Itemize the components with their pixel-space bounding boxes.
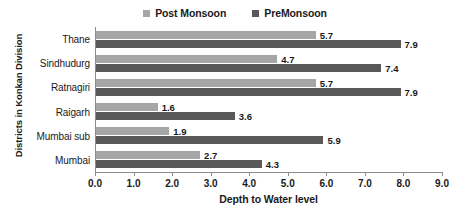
bar-value-post-monsoon: 5.7	[316, 77, 333, 88]
x-tick-label: 9.0	[435, 178, 449, 189]
legend-entry-post-monsoon: Post Monsoon	[143, 7, 226, 19]
y-tick-label: Mumbai sub	[37, 130, 90, 141]
x-axis-title-text: Depth to Water level	[219, 193, 318, 205]
x-tick-label: 6.0	[319, 178, 333, 189]
y-tick-label: Sindhudurg	[40, 58, 90, 69]
bar-value-pre-monsoon: 3.6	[235, 111, 252, 122]
bar-pre-monsoon[interactable]	[96, 40, 401, 48]
bar-post-monsoon[interactable]	[96, 55, 277, 63]
x-tick-label: 8.0	[396, 178, 410, 189]
y-tick-label: Raigarh	[56, 106, 90, 117]
y-axis-title-text: Districts in Konkan Division	[14, 34, 25, 157]
bar-post-monsoon[interactable]	[96, 31, 316, 39]
x-tick-mark	[95, 172, 96, 176]
bar-value-pre-monsoon: 7.4	[381, 62, 398, 73]
x-tick-label: 3.0	[204, 178, 218, 189]
bar-value-post-monsoon: 2.7	[200, 150, 217, 161]
x-tick-label: 0.0	[88, 178, 102, 189]
x-axis-title: Depth to Water level	[95, 193, 442, 205]
bar-value-pre-monsoon: 4.3	[262, 159, 279, 170]
bar-value-pre-monsoon: 7.9	[401, 38, 418, 49]
legend-label-post-monsoon: Post Monsoon	[155, 7, 226, 19]
y-axis-title: Districts in Konkan Division	[11, 0, 27, 215]
bar-pre-monsoon[interactable]	[96, 112, 235, 120]
bar-pre-monsoon-wrap: 4.3	[95, 160, 442, 168]
bar-pre-monsoon-wrap: 3.6	[95, 112, 442, 120]
y-tick-label: Ratnagiri	[51, 82, 90, 93]
bar-pre-monsoon[interactable]	[96, 64, 381, 72]
bar-group: Mumbai sub1.95.9	[95, 124, 442, 148]
y-tick-label: Mumbai	[55, 154, 90, 165]
x-tick-label: 7.0	[358, 178, 372, 189]
bar-post-monsoon-wrap: 1.6	[95, 103, 442, 111]
bar-value-post-monsoon: 1.9	[169, 126, 186, 137]
bar-pre-monsoon[interactable]	[96, 160, 262, 168]
bar-pre-monsoon[interactable]	[96, 136, 323, 144]
bar-value-post-monsoon: 4.7	[277, 53, 294, 64]
bar-group: Ratnagiri5.77.9	[95, 75, 442, 99]
bar-post-monsoon[interactable]	[96, 127, 169, 135]
bar-value-post-monsoon: 5.7	[316, 29, 333, 40]
bar-pre-monsoon-wrap: 5.9	[95, 136, 442, 144]
x-tick-label: 1.0	[127, 178, 141, 189]
bar-pre-monsoon-wrap: 7.9	[95, 40, 442, 48]
bar-post-monsoon-wrap: 5.7	[95, 31, 442, 39]
y-tick-label: Thane	[62, 34, 90, 45]
x-tick-label: 5.0	[281, 178, 295, 189]
bar-chart: Post Monsoon PreMonsoon Districts in Kon…	[0, 0, 470, 215]
bar-group: Sindhudurg4.77.4	[95, 51, 442, 75]
legend-label-pre-monsoon: PreMonsoon	[264, 7, 327, 19]
x-tick-mark	[249, 172, 250, 176]
bar-value-pre-monsoon: 7.9	[401, 86, 418, 97]
bar-group: Mumbai2.74.3	[95, 148, 442, 172]
x-tick-mark	[442, 172, 443, 176]
bar-value-pre-monsoon: 5.9	[323, 135, 340, 146]
bar-group: Thane5.77.9	[95, 27, 442, 51]
x-tick-label: 2.0	[165, 178, 179, 189]
legend-entry-pre-monsoon: PreMonsoon	[252, 7, 327, 19]
x-tick-mark	[403, 172, 404, 176]
bar-post-monsoon[interactable]	[96, 151, 200, 159]
bar-group: Raigarh1.63.6	[95, 100, 442, 124]
chart-legend: Post Monsoon PreMonsoon	[0, 7, 470, 19]
x-tick-mark	[326, 172, 327, 176]
x-tick-label: 4.0	[242, 178, 256, 189]
bar-post-monsoon-wrap: 5.7	[95, 79, 442, 87]
x-tick-mark	[134, 172, 135, 176]
x-tick-mark	[172, 172, 173, 176]
bar-post-monsoon[interactable]	[96, 79, 316, 87]
x-tick-mark	[288, 172, 289, 176]
bar-pre-monsoon-wrap: 7.4	[95, 64, 442, 72]
legend-swatch-icon-post-monsoon	[143, 10, 150, 17]
bar-pre-monsoon[interactable]	[96, 88, 401, 96]
bar-pre-monsoon-wrap: 7.9	[95, 88, 442, 96]
bar-value-post-monsoon: 1.6	[158, 102, 175, 113]
x-tick-mark	[365, 172, 366, 176]
bar-post-monsoon-wrap: 1.9	[95, 127, 442, 135]
plot-area: 0.01.02.03.04.05.06.07.08.09.0 Thane5.77…	[95, 27, 442, 172]
x-tick-mark	[211, 172, 212, 176]
x-axis-line	[95, 172, 443, 173]
bar-post-monsoon[interactable]	[96, 103, 158, 111]
legend-swatch-icon-pre-monsoon	[252, 10, 259, 17]
